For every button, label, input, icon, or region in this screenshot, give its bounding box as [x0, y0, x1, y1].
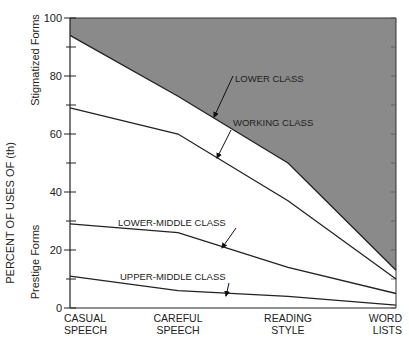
series-annotation-label: UPPER-MIDDLE CLASS [120, 271, 226, 282]
x-category-label: SPEECH [156, 324, 199, 336]
x-category-label: STYLE [271, 324, 304, 336]
y-tick-label: 0 [56, 302, 62, 314]
y-tick-label: 40 [50, 186, 62, 198]
x-category-label: WORD [369, 312, 403, 324]
chart: 020406080100CASUALSPEECHCAREFULSPEECHREA… [0, 0, 409, 346]
x-category-label: CASUAL [64, 312, 106, 324]
x-category-label: LISTS [373, 324, 402, 336]
series-line-upper-middle-class [70, 276, 396, 305]
prestige-forms-label: Prestige Forms [29, 224, 41, 299]
y-tick-label: 80 [50, 70, 62, 82]
annotation-arrow [226, 283, 229, 296]
y-tick-label: 60 [50, 128, 62, 140]
series-annotation-label: LOWER CLASS [235, 73, 304, 84]
series-annotation-label: WORKING CLASS [233, 117, 313, 128]
y-tick-label: 100 [44, 12, 62, 24]
stigmatized-forms-label: Stigmatized Forms [29, 14, 41, 106]
annotation-arrow [217, 130, 231, 158]
y-tick-label: 20 [50, 244, 62, 256]
x-category-label: READING [264, 312, 312, 324]
y-axis-title: PERCENT OF USES OF (th) [4, 142, 16, 284]
x-category-label: SPEECH [64, 324, 107, 336]
series-annotation-label: LOWER-MIDDLE CLASS [118, 217, 226, 228]
x-category-label: CAREFUL [153, 312, 202, 324]
annotation-arrow [222, 228, 236, 248]
